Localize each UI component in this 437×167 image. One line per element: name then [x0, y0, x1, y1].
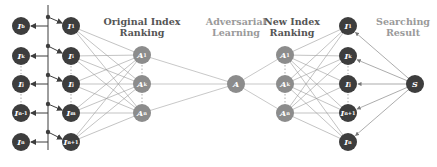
node-subscript: m: [70, 110, 75, 116]
node-subscript: 1: [143, 52, 146, 58]
node-original-index: Ij: [62, 75, 80, 93]
node-new-index: Ik: [339, 47, 357, 65]
node-input: In-1: [12, 104, 30, 122]
edge-bus-to-original: [48, 75, 62, 81]
node-input: Ik: [12, 47, 30, 65]
title-line-2: Ranking: [96, 27, 188, 38]
node-subscript: k: [286, 81, 289, 87]
edge-to-adversarial-center: [142, 84, 236, 113]
node-subscript: n: [21, 139, 25, 145]
node-adversarial-left: Ak: [133, 75, 151, 93]
node-subscript: 1: [71, 23, 74, 29]
node-adversarial-right: A1: [276, 46, 294, 64]
title-line-2: Ranking: [257, 27, 327, 38]
edge-to-adversarial-center: [142, 55, 236, 84]
node-adversarial-right: Ak: [276, 75, 294, 93]
edge-bus-to-original: [48, 17, 62, 23]
node-input: Ij: [12, 75, 30, 93]
node-new-index: Ij: [339, 75, 357, 93]
node-subscript: n-1: [18, 110, 27, 116]
edge-search-to-result: [356, 33, 415, 84]
node-subscript: j: [349, 81, 351, 87]
title-line-1: Searching: [370, 16, 436, 27]
edge-search-to-result: [356, 84, 415, 135]
edge-bus-to-original: [48, 104, 62, 110]
node-original-index: Ii: [62, 47, 80, 65]
title-line-2: Result: [370, 27, 436, 38]
node-label: A: [233, 79, 239, 89]
node-label: S: [412, 79, 418, 89]
edge-adversarial-to-new: [285, 26, 348, 113]
node-subscript: 1: [286, 52, 289, 58]
node-new-index: In+1: [339, 104, 357, 122]
node-subscript: i: [72, 53, 74, 59]
node-subscript: k: [143, 81, 146, 87]
node-original-index: In+1: [62, 133, 80, 151]
edge-adversarial-to-new: [285, 113, 348, 142]
node-subscript: k: [348, 53, 351, 59]
node-subscript: n+1: [67, 139, 78, 145]
node-original-index: Im: [62, 104, 80, 122]
node-input: Ib: [12, 17, 30, 35]
title-searching-result: Searching Result: [370, 16, 436, 38]
node-adversarial-left: An: [133, 104, 151, 122]
node-input: In: [12, 133, 30, 151]
edge-bus-to-original: [48, 132, 62, 139]
node-original-index: I1: [62, 17, 80, 35]
node-subscript: n: [348, 139, 352, 145]
edge-bus-to-original: [48, 46, 62, 53]
node-subscript: j: [22, 81, 24, 87]
edge-original-to-adversarial: [71, 113, 142, 142]
node-new-index: I1: [339, 17, 357, 35]
node-search: S: [406, 75, 424, 93]
node-adversarial-right: An: [276, 104, 294, 122]
title-new-index-ranking: New Index Ranking: [257, 16, 327, 38]
node-subscript: n: [143, 110, 147, 116]
node-subscript: n: [286, 110, 290, 116]
node-adversarial-left: A1: [133, 46, 151, 64]
node-subscript: b: [21, 23, 25, 29]
title-original-index-ranking: Original Index Ranking: [96, 16, 188, 38]
node-new-index: In: [339, 133, 357, 151]
ranking-diagram: Original Index Ranking Adversarial Learn…: [0, 0, 437, 167]
node-adversarial-center: A: [227, 75, 245, 93]
node-subscript: 1: [348, 23, 351, 29]
edge-original-to-adversarial: [71, 55, 142, 142]
title-line-1: Original Index: [96, 16, 188, 27]
node-subscript: j: [72, 81, 74, 87]
node-subscript: n+1: [344, 110, 355, 116]
node-subscript: k: [21, 53, 24, 59]
title-line-1: New Index: [257, 16, 327, 27]
